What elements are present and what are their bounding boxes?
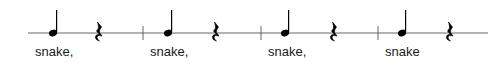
quarter-note-icon — [397, 10, 407, 38]
rhythm-score: snake, snake, snake, snake — [0, 0, 503, 65]
lyric-4: snake — [385, 44, 420, 59]
lyric-2: snake, — [150, 44, 188, 59]
lyric-3: snake, — [268, 44, 306, 59]
quarter-note-icon — [280, 10, 290, 38]
quarter-rest-icon — [95, 22, 102, 41]
quarter-note-icon — [48, 10, 58, 38]
quarter-rest-icon — [212, 22, 219, 41]
quarter-rest-icon — [446, 22, 453, 41]
quarter-rest-icon — [330, 22, 337, 41]
score-graphics — [0, 0, 503, 65]
lyric-1: snake, — [35, 44, 73, 59]
quarter-note-icon — [163, 10, 173, 38]
